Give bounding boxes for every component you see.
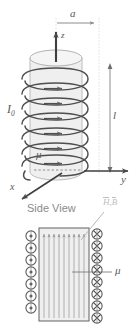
side-view-caption: Side View	[27, 203, 76, 214]
label-permeability-mu-perspective: μ	[36, 149, 42, 160]
label-field-H-B: H,B	[103, 198, 117, 207]
label-current-I0: I0	[7, 103, 15, 118]
label-radius-a: a	[70, 8, 76, 19]
label-axis-x: x	[10, 182, 14, 192]
length-dimension-arrow	[108, 63, 113, 173]
label-field-H: H	[103, 198, 110, 207]
label-field-B: B	[112, 198, 118, 207]
figure-vector-canvas	[0, 0, 136, 333]
label-axis-z: z	[61, 31, 65, 40]
label-current-subscript: 0	[11, 109, 15, 118]
label-permeability-mu-sideview: μ	[115, 265, 121, 276]
current-out-of-page-symbols	[26, 231, 36, 313]
label-axis-y: y	[121, 174, 126, 185]
current-into-page-symbols	[92, 229, 102, 323]
label-length-l: l	[113, 110, 116, 121]
physics-figure-solenoid: a z I0 μ l x y Side View H,B μ	[0, 0, 136, 333]
